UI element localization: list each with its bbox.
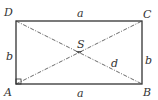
vertex-label-a: A — [3, 86, 12, 99]
side-label-right: b — [145, 54, 152, 67]
side-label-top: a — [77, 7, 84, 20]
side-label-left: b — [6, 50, 13, 63]
vertex-label-b: B — [142, 86, 151, 99]
rectangle-diagram: D C A B S a a b b d — [0, 0, 158, 100]
side-label-bottom: a — [77, 87, 84, 100]
diagonal-label: d — [111, 57, 118, 70]
center-label-s: S — [77, 38, 85, 51]
vertex-label-d: D — [3, 6, 13, 19]
vertex-label-c: C — [143, 8, 152, 21]
